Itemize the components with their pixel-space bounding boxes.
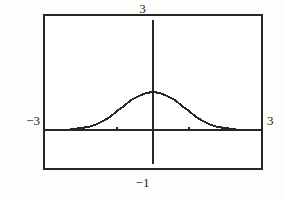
plot-frame [43, 14, 263, 170]
plot-area [45, 16, 261, 168]
x-min-label: −3 [18, 114, 40, 127]
y-min-label: −1 [0, 176, 285, 189]
x-max-label: 3 [267, 114, 285, 127]
graph-canvas [45, 16, 261, 168]
calculator-screen: 3 −3 3 −1 [0, 0, 285, 200]
